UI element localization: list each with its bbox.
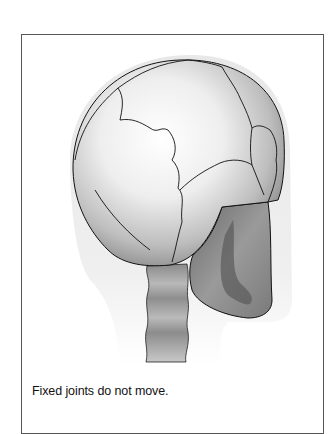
figure-caption: Fixed joints do not move.: [32, 384, 168, 398]
neck-vertebrae: [146, 264, 189, 362]
